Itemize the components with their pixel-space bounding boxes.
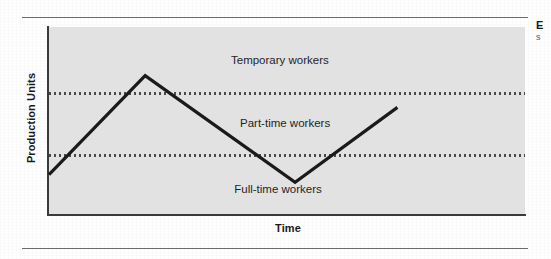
margin-note-subtext: s <box>536 31 551 43</box>
band-label-full-time-workers: Full-time workers <box>198 183 358 195</box>
x-axis-label: Time <box>238 222 338 234</box>
line-chart: Production Units Time Temporary workers … <box>0 0 551 259</box>
margin-note: E s <box>536 19 551 43</box>
figure-page: Production Units Time Temporary workers … <box>0 0 551 259</box>
band-label-part-time-workers: Part-time workers <box>205 117 365 129</box>
band-label-temporary-workers: Temporary workers <box>200 54 360 66</box>
series-overlay <box>0 0 551 259</box>
margin-note-heading: E <box>536 19 551 31</box>
y-axis-label: Production Units <box>25 48 37 188</box>
